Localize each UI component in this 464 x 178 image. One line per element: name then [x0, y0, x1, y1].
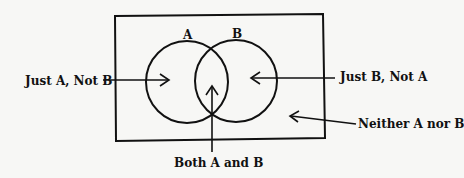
arrow-neither: [290, 111, 356, 124]
just-a-label: Just A, Not B: [25, 74, 112, 88]
both-label: Both A and B: [174, 156, 263, 170]
just-b-label: Just B, Not A: [340, 70, 427, 84]
arrow-just-b: [251, 72, 335, 84]
set-b-circle: [195, 40, 277, 122]
arrow-both: [206, 86, 218, 152]
neither-label: Neither A nor B: [358, 117, 464, 131]
set-b-label: B: [232, 27, 242, 41]
set-a-label: A: [183, 28, 192, 42]
set-a-circle: [146, 41, 228, 123]
arrow-just-a: [103, 74, 169, 86]
